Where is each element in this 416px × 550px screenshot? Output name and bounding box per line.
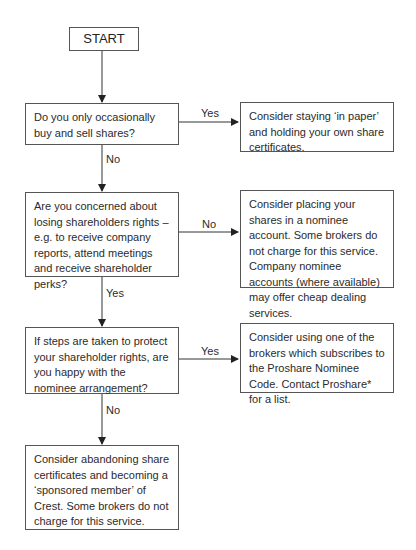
question-box-2: Are you concerned about losing sharehold…	[25, 192, 179, 277]
outcome-text: Consider staying ‘in paper’ and holding …	[249, 110, 384, 153]
question-text: If steps are taken to protect your share…	[34, 335, 169, 394]
edge-label-q2-yes: Yes	[106, 287, 124, 299]
outcome-box-1: Consider staying ‘in paper’ and holding …	[240, 102, 394, 152]
outcome-box-4: Consider abandoning share certificates a…	[25, 445, 179, 530]
outcome-text: Consider abandoning share certificates a…	[34, 453, 169, 527]
question-box-3: If steps are taken to protect your share…	[25, 327, 179, 394]
question-text: Are you concerned about losing sharehold…	[34, 200, 169, 290]
question-box-1: Do you only occasionally buy and sell sh…	[25, 103, 179, 145]
start-label: START	[83, 31, 124, 46]
edge-label-q3-yes: Yes	[201, 345, 219, 357]
outcome-box-3: Consider using one of the brokers which …	[240, 323, 394, 393]
outcome-box-2: Consider placing your shares in a nomine…	[240, 190, 394, 288]
edge-label-q3-no: No	[106, 404, 120, 416]
start-node: START	[69, 27, 139, 51]
question-text: Do you only occasionally buy and sell sh…	[34, 111, 155, 139]
edge-label-q1-yes: Yes	[201, 107, 219, 119]
edge-label-q1-no: No	[106, 153, 120, 165]
edge-label-q2-no: No	[202, 218, 216, 230]
outcome-text: Consider placing your shares in a nomine…	[249, 198, 380, 319]
